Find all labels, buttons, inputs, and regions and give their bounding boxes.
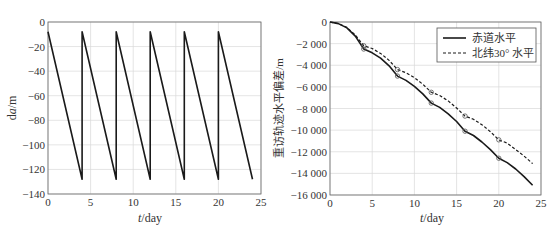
y-tick-label: −10 000 [291, 124, 328, 136]
right-x-axis-label: t/day [420, 211, 444, 225]
x-tick-label: 15 [451, 197, 463, 209]
x-tick-label: 15 [170, 196, 182, 208]
left-series [48, 32, 253, 180]
x-tick-label: 0 [45, 196, 51, 208]
left-y-ticks: 0−20−40−60−80−100−120−140 [22, 16, 45, 200]
y-tick-label: −16 000 [291, 189, 328, 201]
y-tick-label: −8 000 [296, 103, 327, 115]
y-tick-label: −40 [28, 65, 46, 77]
x-tick-label: 20 [213, 196, 225, 208]
y-tick-label: −100 [22, 139, 45, 151]
left-chart-da: 0−20−40−60−80−100−120−140 0510152025 t/d… [5, 16, 267, 225]
x-tick-label: 5 [369, 197, 375, 209]
legend: 赤道水平 北纬30° 水平 [437, 28, 536, 62]
x-tick-label: 5 [88, 196, 94, 208]
x-tick-label: 10 [409, 197, 421, 209]
x-tick-label: 0 [327, 197, 333, 209]
x-tick-label: 25 [536, 197, 548, 209]
right-x-ticks: 0510152025 [327, 197, 547, 209]
y-tick-label: 0 [322, 16, 328, 28]
y-tick-label: −60 [28, 90, 46, 102]
legend-label-equator: 赤道水平 [472, 31, 516, 44]
y-tick-label: −12 000 [291, 146, 328, 158]
y-tick-label: −2 000 [296, 38, 327, 50]
right-y-axis-label: 重访轨迹水平偏差/m [272, 58, 285, 158]
y-tick-label: −120 [22, 163, 45, 175]
y-tick-label: 0 [40, 16, 46, 28]
y-tick-label: −80 [28, 114, 46, 126]
y-tick-label: −140 [22, 188, 45, 200]
y-tick-label: −14 000 [291, 167, 328, 179]
y-tick-label: −6 000 [296, 81, 327, 93]
chart-figure: 0−20−40−60−80−100−120−140 0510152025 t/d… [0, 0, 559, 231]
series-line-solid [48, 32, 253, 180]
y-tick-label: −4 000 [296, 59, 327, 71]
right-y-ticks: 0−2 000−4 000−6 000−8 000−10 000−12 000−… [291, 16, 328, 201]
right-chart-deviation: 0−2 000−4 000−6 000−8 000−10 000−12 000−… [272, 16, 547, 225]
left-y-axis-label: da/m [5, 95, 19, 120]
legend-label-30n: 北纬30° 水平 [472, 47, 534, 59]
x-tick-label: 20 [493, 197, 505, 209]
left-x-ticks: 0510152025 [45, 196, 267, 208]
x-tick-label: 25 [256, 196, 268, 208]
left-x-axis-label: t/day [138, 211, 162, 225]
y-tick-label: −20 [28, 41, 46, 53]
x-tick-label: 10 [128, 196, 140, 208]
